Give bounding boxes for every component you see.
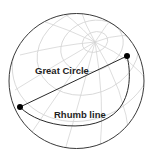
rhumb-line-label: Rhumb line [54, 109, 106, 120]
great-circle-route [20, 56, 127, 107]
end-point-marker [124, 53, 130, 59]
great-circle-label: Great Circle [35, 65, 89, 76]
globe-diagram: Great Circle Rhumb line [0, 0, 152, 165]
start-point-marker [17, 104, 23, 110]
